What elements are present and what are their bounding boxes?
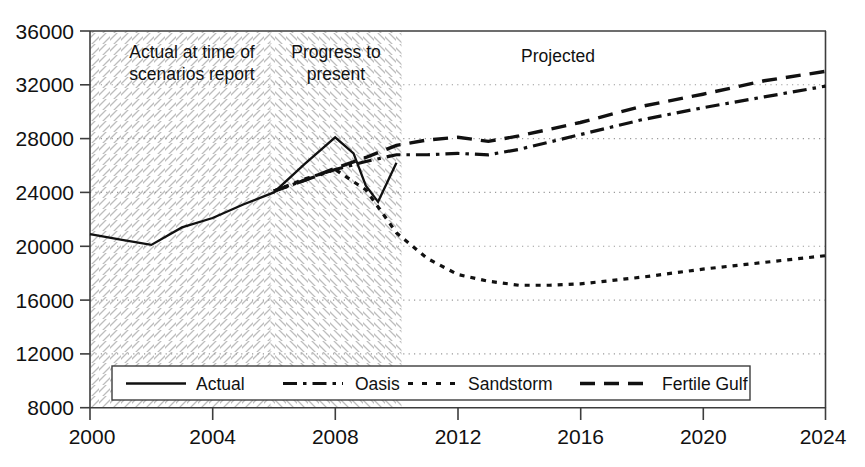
chart-container: 36000 32000 28000 24000 20000 16000 1200… [0,0,865,467]
y-tick-label-36000: 36000 [16,20,74,43]
y-tick-label-24000: 24000 [16,181,74,204]
x-axis-ticks [90,408,826,420]
y-tick-label-8000: 8000 [27,396,74,419]
band-label-progress-line1: Progress to [291,42,380,62]
x-tick-label-2012: 2012 [435,425,482,448]
band-label-projected: Projected [521,46,595,66]
band-label-progress-line2: present [307,64,366,84]
shaded-region-actual-at-report [91,31,271,408]
legend-label-oasis: Oasis [355,374,400,394]
x-axis-tick-labels: 2000 2004 2008 2012 2016 2020 2024 [69,425,847,448]
line-chart: 36000 32000 28000 24000 20000 16000 1200… [0,0,865,467]
x-tick-label-2008: 2008 [312,425,359,448]
y-tick-label-12000: 12000 [16,342,74,365]
y-axis-ticks [80,31,90,408]
legend-label-actual: Actual [196,374,245,394]
shaded-region-progress-to-present [271,31,402,408]
x-tick-label-2024: 2024 [800,425,847,448]
x-tick-label-2016: 2016 [557,425,604,448]
y-axis-tick-labels: 36000 32000 28000 24000 20000 16000 1200… [16,20,74,420]
legend[interactable]: Actual Oasis Sandstorm Fertile Gulf [112,366,750,400]
legend-label-sandstorm: Sandstorm [468,374,553,394]
legend-label-fertile-gulf: Fertile Gulf [662,374,748,394]
band-label-actual-line1: Actual at time of [129,42,255,62]
x-tick-label-2004: 2004 [189,425,236,448]
x-tick-label-2020: 2020 [680,425,727,448]
band-label-actual-line2: scenarios report [129,64,255,84]
band-annotation-projected: Projected [521,46,595,66]
x-tick-label-2000: 2000 [69,425,116,448]
y-tick-label-16000: 16000 [16,289,74,312]
y-tick-label-28000: 28000 [16,127,74,150]
y-tick-label-32000: 32000 [16,73,74,96]
y-tick-label-20000: 20000 [16,235,74,258]
